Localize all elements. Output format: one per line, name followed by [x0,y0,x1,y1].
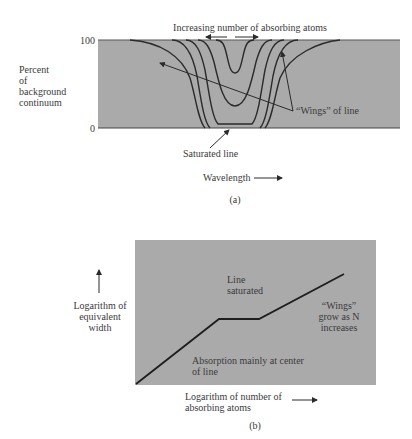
panel-a-top-label: Increasing number of absorbing atoms [150,22,350,33]
panel-a-caption: (a) [220,194,250,205]
panel-b-y-label: Logarithm of equivalent width [65,300,135,333]
panel-b-saturated-annotation: Line saturated [227,274,263,296]
panel-a-y-tick-0: 0 [90,123,95,134]
panel-a-y-label: Percent of background continuum [19,64,66,108]
panel-a-wings-annotation: “Wings” of line [296,105,359,116]
panel-a-saturated-annotation: Saturated line [183,148,238,159]
panel-b-caption: (b) [240,420,270,431]
panel-b-center-annotation: Absorption mainly at center of line [192,355,304,377]
panel-a-y-tick-100: 100 [80,35,95,46]
panel-b-wings-annotation: “Wings” grow as N increases [313,300,365,333]
panel-b-x-label: Logarithm of number of absorbing atoms [185,391,282,413]
panel-a-x-label: Wavelength [203,172,251,183]
